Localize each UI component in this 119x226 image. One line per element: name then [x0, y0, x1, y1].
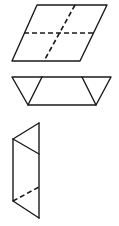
parallelogram-figure: [12, 5, 107, 61]
dashed-fold-line: [13, 187, 39, 201]
diagram-canvas: [0, 0, 119, 226]
solid-edge: [28, 77, 42, 105]
trapezoid-figure: [12, 77, 111, 105]
solid-edge: [13, 123, 39, 139]
solid-edge: [13, 201, 39, 218]
vertical-folded-figure: [13, 123, 39, 218]
outline: [12, 77, 111, 105]
solid-edge: [82, 77, 96, 105]
solid-edge: [13, 139, 39, 154]
